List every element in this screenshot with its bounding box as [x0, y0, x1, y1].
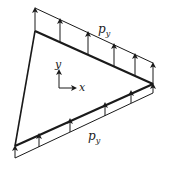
x-axis-label: x [79, 81, 86, 94]
top-distributed-load: py [35, 8, 153, 84]
diagram-canvas: py py y x [0, 0, 169, 170]
y-axis-label: y [54, 58, 62, 71]
coordinate-axes: y x [54, 58, 86, 94]
bottom-load-label: py [88, 129, 101, 145]
bottom-distributed-load: py [15, 86, 153, 158]
top-load-label: py [98, 22, 111, 38]
triangular-plate-diagram: py py y x [0, 0, 169, 170]
